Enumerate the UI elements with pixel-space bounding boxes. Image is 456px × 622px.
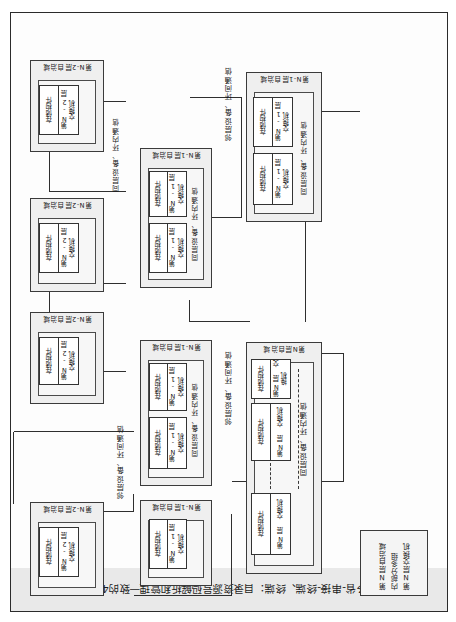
switch-cell: 第N-1层 交换机: [169, 364, 187, 410]
switch-cell: 第N-2层 交换机: [60, 224, 79, 272]
storage-cell: 存储构件: [40, 528, 60, 576]
switch-label: 第N-2层 交换机: [60, 86, 77, 134]
domain-label: 第N层自治域: [247, 345, 321, 355]
note-line-2: 内部分多组: [390, 552, 399, 590]
switch-label: 第N-1层 交换机: [169, 224, 186, 272]
node-layer-n-3[interactable]: 存储构件 第N层 交换机: [251, 359, 291, 399]
switch-label: 第N-1层 交换机: [169, 172, 186, 216]
connector: [133, 494, 134, 512]
domain-label: 第N-1层自治域: [247, 75, 321, 85]
storage-cell: 存储构件: [254, 154, 274, 204]
domain-label: 第N-2层自治域: [31, 505, 103, 515]
switch-cell: 第N-1层 交换机: [169, 520, 187, 568]
domain-layer-n2-a[interactable]: 存储构件 第N-2层 交换机 第N-2层自治域: [30, 502, 104, 596]
note-line-3: 第N层交换机: [402, 542, 411, 590]
switch-label: 第N-1层 交换机: [169, 418, 186, 468]
storage-cell: 存储构件: [252, 360, 272, 398]
connector: [13, 432, 14, 504]
storage-label: 存储构件: [155, 181, 163, 207]
storage-label: 存储构件: [155, 430, 163, 456]
domain-layer-n1-a[interactable]: 存储构件 第N-1层 交换机 第N-1层自治域: [140, 500, 212, 586]
storage-cell: 存储构件: [40, 224, 60, 272]
domain-layer-n[interactable]: 存储构件 第N层 交换机 存储构件 第N层 交换机 存储构件 第N层 交换机 同: [246, 342, 322, 574]
switch-cell: 第N-1层 交换机: [274, 154, 293, 204]
note-box: 第N层自治域 内部分多组 第N层交换机: [360, 530, 428, 596]
storage-cell: 存储构件: [150, 364, 169, 410]
node-layer-n2-b-1[interactable]: 存储构件 第N-2层 交换机: [39, 337, 79, 385]
switch-label: 第N-1层 交换机: [169, 520, 186, 568]
intra-ring-label: 同层设备、环内通信: [298, 403, 309, 477]
domain-layer-n1-d[interactable]: 存储构件 第N-1层 交换机 存储构件 第N-1层 交换机 同层设备、环内通信 …: [246, 72, 322, 222]
intra-ring-label-right-lower: 同层设备、环内通信: [112, 118, 122, 192]
switch-cell: 第N-2层 交换机: [60, 338, 79, 384]
switch-cell: 第N-1层 交换机: [169, 418, 187, 468]
storage-cell: 存储构件: [254, 98, 274, 146]
storage-cell: 存储构件: [252, 404, 272, 460]
connector: [241, 98, 242, 218]
connector: [134, 595, 232, 596]
domain-layer-n2-c[interactable]: 存储构件 第N-2层 交换机 第N-2层自治域: [30, 198, 104, 292]
storage-label: 存储构件: [45, 539, 53, 565]
storage-label: 存储构件: [257, 419, 265, 445]
node-layer-n1-d-2[interactable]: 存储构件 第N-1层 交换机: [253, 97, 293, 147]
switch-cell: 第N层 交换机: [272, 494, 291, 554]
switch-cell: 第N-1层 交换机: [169, 224, 187, 272]
inter-ring-label-top: 邻层设备、环间通信: [115, 426, 126, 500]
storage-label: 存储构件: [257, 511, 265, 537]
inter-ring-label-middle: 邻层设备、环间通信: [223, 352, 234, 426]
switch-label: 第N-2层 交换机: [60, 528, 77, 576]
switch-cell: 第N层 交换机: [272, 360, 291, 398]
note-line-1: 第N层自治域: [378, 542, 387, 590]
node-layer-n2-a-1[interactable]: 存储构件 第N-2层 交换机: [39, 527, 79, 577]
node-layer-n2-c-1[interactable]: 存储构件 第N-2层 交换机: [39, 223, 79, 273]
storage-label: 存储构件: [259, 166, 267, 192]
storage-label: 存储构件: [155, 374, 163, 400]
storage-label: 存储构件: [45, 97, 53, 123]
switch-label: 第N-2层 交换机: [60, 338, 77, 384]
node-layer-n1-d-1[interactable]: 存储构件 第N-1层 交换机: [253, 153, 293, 205]
node-layer-n1-c-1[interactable]: 存储构件 第N-1层 交换机: [149, 223, 187, 273]
storage-cell: 存储构件: [252, 494, 272, 554]
storage-cell: 存储构件: [40, 86, 60, 134]
domain-label: 第N-2层自治域: [31, 63, 103, 73]
switch-label: 第N-1层 交换机: [274, 98, 291, 146]
switch-label: 第N层 交换机: [277, 499, 285, 549]
ellipsis-divider: [270, 463, 271, 489]
node-layer-n-1[interactable]: 存储构件 第N层 交换机: [251, 493, 291, 555]
connector: [343, 354, 344, 482]
domain-layer-n1-b[interactable]: 存储构件 第N-1层 交换机 存储构件 第N-1层 交换机 同层设备、环内通信 …: [140, 340, 212, 486]
storage-cell: 存储构件: [150, 418, 169, 468]
node-layer-n1-b-1[interactable]: 存储构件 第N-1层 交换机: [149, 417, 187, 469]
storage-label: 存储构件: [257, 366, 265, 392]
switch-cell: 第N-1层 交换机: [274, 98, 293, 146]
storage-cell: 存储构件: [40, 338, 60, 384]
switch-cell: 第N-1层 交换机: [169, 172, 187, 216]
node-layer-n-2[interactable]: 存储构件 第N层 交换机: [251, 403, 291, 461]
domain-layer-n1-c[interactable]: 存储构件 第N-1层 交换机 存储构件 第N-1层 交换机 同层设备、环内通信 …: [140, 148, 212, 288]
domain-layer-n2-b[interactable]: 存储构件 第N-2层 交换机 第N-2层自治域: [30, 312, 104, 404]
switch-label: 第N层 交换机: [272, 360, 289, 398]
inter-ring-label-bottom: 邻层设备、环间通信: [223, 68, 234, 142]
switch-label: 第N-2层 交换机: [60, 224, 77, 272]
domain-label: 第N-1层自治域: [141, 151, 211, 161]
node-layer-n1-c-2[interactable]: 存储构件 第N-1层 交换机: [149, 171, 187, 217]
switch-label: 第N层 交换机: [277, 407, 285, 457]
domain-layer-n2-d[interactable]: 存储构件 第N-2层 交换机 第N-2层自治域: [30, 60, 104, 152]
storage-cell: 存储构件: [150, 520, 169, 568]
connector: [189, 300, 190, 322]
connector: [190, 321, 250, 322]
node-layer-n2-d-1[interactable]: 存储构件 第N-2层 交换机: [39, 85, 79, 135]
storage-label: 存储构件: [259, 109, 267, 135]
storage-label: 存储构件: [45, 235, 53, 261]
domain-label: 第N-2层自治域: [31, 315, 103, 325]
node-layer-n1-a-1[interactable]: 存储构件 第N-1层 交换机: [149, 519, 187, 569]
intra-ring-label: 同层设备、环内通信: [300, 121, 310, 195]
switch-cell: 第N-2层 交换机: [60, 528, 79, 576]
switch-cell: 第N-2层 交换机: [60, 86, 79, 134]
switch-label: 第N-1层 交换机: [274, 154, 291, 204]
domain-label: 第N-2层自治域: [31, 201, 103, 211]
switch-cell: 第N层 交换机: [272, 404, 291, 460]
switch-label: 第N-1层 交换机: [169, 364, 186, 410]
connector: [231, 550, 232, 596]
node-layer-n1-b-2[interactable]: 存储构件 第N-1层 交换机: [149, 363, 187, 411]
